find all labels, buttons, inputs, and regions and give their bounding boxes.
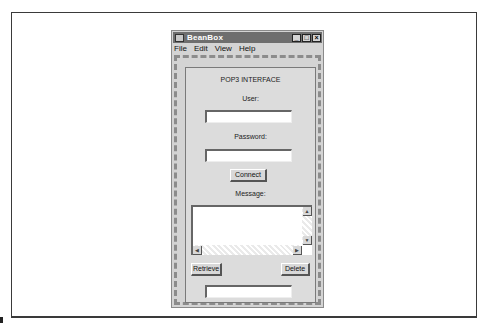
- message-textarea[interactable]: ▲ ▼ ◀ ▶: [191, 205, 312, 255]
- panel-heading: POP3 INTERFACE: [186, 76, 315, 83]
- retrieve-button[interactable]: Retrieve: [191, 263, 222, 276]
- menu-edit[interactable]: Edit: [194, 44, 208, 55]
- delete-button[interactable]: Delete: [281, 263, 310, 276]
- scroll-down-icon[interactable]: ▼: [303, 236, 312, 245]
- menu-file[interactable]: File: [174, 44, 187, 55]
- password-input[interactable]: [205, 149, 292, 162]
- horizontal-scrollbar[interactable]: ◀ ▶: [193, 245, 302, 255]
- menu-view[interactable]: View: [215, 44, 232, 55]
- password-label: Password:: [186, 133, 315, 140]
- minimize-button[interactable]: _: [292, 34, 301, 42]
- title-bar[interactable]: BeanBox _ □ ×: [173, 32, 322, 43]
- connect-button[interactable]: Connect: [230, 169, 267, 182]
- user-input[interactable]: [205, 110, 292, 123]
- maximize-button[interactable]: □: [302, 34, 311, 42]
- app-icon: [175, 34, 184, 42]
- status-field[interactable]: [205, 285, 292, 298]
- margin-marker: [0, 317, 3, 323]
- user-label: User:: [186, 95, 315, 102]
- vertical-scrollbar[interactable]: ▲ ▼: [302, 207, 312, 245]
- menu-bar: File Edit View Help: [174, 44, 262, 55]
- scroll-up-icon[interactable]: ▲: [303, 207, 312, 216]
- beanbox-window: BeanBox _ □ × File Edit View Help POP3 I…: [171, 30, 324, 308]
- scroll-right-icon[interactable]: ▶: [293, 246, 302, 255]
- scroll-left-icon[interactable]: ◀: [193, 246, 202, 255]
- window-title: BeanBox: [187, 33, 292, 42]
- menu-help[interactable]: Help: [239, 44, 255, 55]
- beanbox-canvas: POP3 INTERFACE User: Password: Connect M…: [174, 55, 321, 305]
- close-button[interactable]: ×: [312, 34, 321, 42]
- message-label: Message:: [186, 190, 315, 197]
- pop3-bean-panel: POP3 INTERFACE User: Password: Connect M…: [185, 67, 316, 303]
